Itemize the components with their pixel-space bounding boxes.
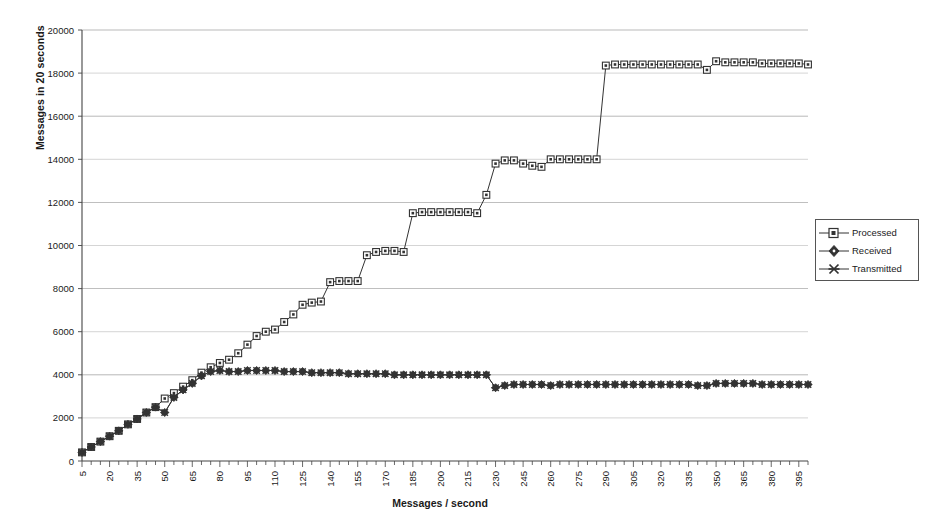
square-marker-icon	[819, 226, 849, 240]
x-tick-label: 290	[600, 471, 611, 487]
y-tick-label: 2000	[53, 412, 74, 423]
x-tick-label: 170	[380, 471, 391, 487]
y-axis-title: Messages in 20 seconds	[34, 0, 46, 150]
x-tick-label: 215	[462, 471, 473, 487]
x-tick-label: 395	[793, 471, 804, 487]
x-tick-label: 185	[407, 471, 418, 487]
x-tick-label: 95	[242, 471, 253, 482]
y-tick-label: 8000	[53, 283, 74, 294]
y-tick-label: 4000	[53, 369, 74, 380]
x-tick-label: 35	[132, 471, 143, 482]
line-chart: Messages in 20 seconds 02000400060008000…	[0, 0, 928, 523]
y-tick-label: 10000	[48, 240, 74, 251]
series-processed	[79, 58, 812, 456]
y-axis-title-wrap: Messages in 20 seconds	[22, 0, 42, 470]
x-tick-label: 335	[683, 471, 694, 487]
plot-area: 0200040006000800010000120001400016000180…	[0, 0, 928, 523]
x-tick-label: 125	[297, 471, 308, 487]
cross-marker-icon	[819, 262, 849, 276]
x-tick-label: 380	[766, 471, 777, 487]
y-tick-label: 6000	[53, 326, 74, 337]
x-tick-label: 50	[159, 471, 170, 482]
y-tick-label: 20000	[48, 25, 74, 36]
x-tick-label: 350	[711, 471, 722, 487]
legend-label-received: Received	[852, 244, 892, 258]
x-tick-label: 5	[77, 471, 88, 476]
x-axis-title: Messages / second	[0, 497, 880, 509]
x-tick-label: 140	[325, 471, 336, 487]
legend-label-transmitted: Transmitted	[852, 262, 902, 276]
y-tick-label: 12000	[48, 197, 74, 208]
x-tick-label: 245	[518, 471, 529, 487]
x-tick-label: 305	[628, 471, 639, 487]
legend-item-processed[interactable]: Processed	[819, 224, 915, 242]
legend-item-transmitted[interactable]: Transmitted	[819, 260, 915, 278]
x-tick-label: 260	[545, 471, 556, 487]
x-tick-label: 365	[738, 471, 749, 487]
legend-item-received[interactable]: Received	[819, 242, 915, 260]
x-tick-label: 200	[435, 471, 446, 487]
x-tick-label: 230	[490, 471, 501, 487]
series-transmitted	[78, 367, 812, 455]
legend-label-processed: Processed	[852, 226, 897, 240]
x-tick-label: 20	[104, 471, 115, 482]
y-tick-label: 16000	[48, 111, 74, 122]
x-tick-label: 65	[187, 471, 198, 482]
x-tick-label: 275	[573, 471, 584, 487]
legend: Processed Received Transmit	[815, 219, 919, 281]
y-tick-label: 0	[69, 456, 74, 467]
x-tick-label: 155	[352, 471, 363, 487]
diamond-marker-icon	[819, 244, 849, 258]
y-tick-label: 18000	[48, 68, 74, 79]
x-tick-label: 110	[269, 471, 280, 486]
y-tick-label: 14000	[48, 154, 74, 165]
series-received	[78, 366, 812, 456]
x-tick-label: 80	[214, 471, 225, 482]
x-tick-label: 320	[655, 471, 666, 487]
